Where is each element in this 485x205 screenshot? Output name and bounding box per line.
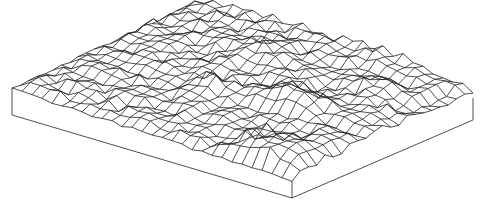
mesh-row-line	[168, 12, 448, 105]
mesh-col-line	[202, 46, 383, 151]
mesh-row-line	[94, 46, 374, 131]
mesh-row-line	[177, 8, 457, 99]
mesh-col-line	[252, 74, 433, 168]
block-base	[12, 88, 473, 198]
terrain-mesh	[12, 0, 473, 181]
mesh-col-line	[292, 93, 473, 181]
mesh-row-line	[185, 1, 465, 94]
mesh-col-line	[82, 18, 263, 112]
terrain-figure: Isometric wireframe terrain surface on b…	[0, 0, 485, 205]
wireframe-surface-plot	[0, 0, 485, 205]
